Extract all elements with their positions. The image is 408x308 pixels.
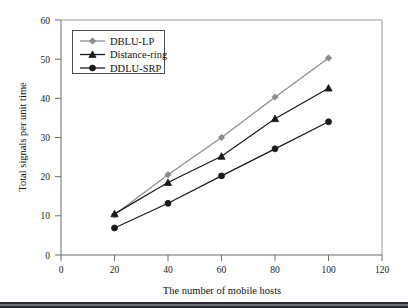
series-distance-ring-point-3 xyxy=(271,115,278,122)
legend-label-dblu-lp: DBLU-LP xyxy=(110,36,154,47)
x-axis-title: The number of mobile hosts xyxy=(163,285,281,296)
y-tick-label: 0 xyxy=(45,251,50,261)
legend-label-ddlu-srp: DDLU-SRP xyxy=(110,63,162,74)
x-tick-label: 100 xyxy=(321,265,336,275)
series-ddlu-srp-point-2 xyxy=(219,173,225,179)
data-series-layer xyxy=(111,55,332,231)
series-distance-ring xyxy=(111,85,332,217)
x-tick-label: 20 xyxy=(110,265,120,275)
y-tick-label: 60 xyxy=(41,16,51,26)
y-axis-tick-labels: 0 10 20 30 40 50 60 xyxy=(41,16,51,261)
x-tick-label: 80 xyxy=(270,265,280,275)
series-ddlu-srp-point-3 xyxy=(272,146,278,152)
line-chart: 0 10 20 30 40 50 60 0 20 40 60 80 100 12… xyxy=(0,0,408,308)
series-ddlu-srp-point-0 xyxy=(112,225,118,231)
series-ddlu-srp-point-4 xyxy=(326,119,332,125)
y-tick-label: 20 xyxy=(41,172,51,182)
chart-figure: 0 10 20 30 40 50 60 0 20 40 60 80 100 12… xyxy=(0,0,408,308)
legend-marker-ddlu-srp-point-0 xyxy=(90,65,96,71)
y-tick-label: 50 xyxy=(41,55,51,65)
series-ddlu-srp-point-1 xyxy=(165,200,171,206)
y-tick-label: 40 xyxy=(41,94,51,104)
footer-bar xyxy=(0,302,408,308)
series-distance-ring-point-1 xyxy=(164,179,171,186)
y-axis-title: Total signals per unit time xyxy=(17,82,28,192)
x-tick-label: 60 xyxy=(217,265,227,275)
legend: DBLU-LP Distance-ring DDLU-SRP xyxy=(73,31,168,74)
x-tick-label: 120 xyxy=(375,265,390,275)
x-tick-label: 0 xyxy=(59,265,64,275)
y-tick-label: 10 xyxy=(41,211,51,221)
y-axis-ticks xyxy=(55,20,61,255)
series-line-distance-ring xyxy=(115,88,329,214)
footer-bar-highlight xyxy=(0,304,408,306)
x-tick-label: 40 xyxy=(163,265,173,275)
series-distance-ring-point-2 xyxy=(218,153,225,160)
x-axis-tick-labels: 0 20 40 60 80 100 120 xyxy=(59,265,390,275)
y-tick-label: 30 xyxy=(41,133,51,143)
series-distance-ring-point-4 xyxy=(325,85,332,92)
legend-label-distance-ring: Distance-ring xyxy=(110,49,168,60)
x-axis-ticks xyxy=(61,255,382,261)
